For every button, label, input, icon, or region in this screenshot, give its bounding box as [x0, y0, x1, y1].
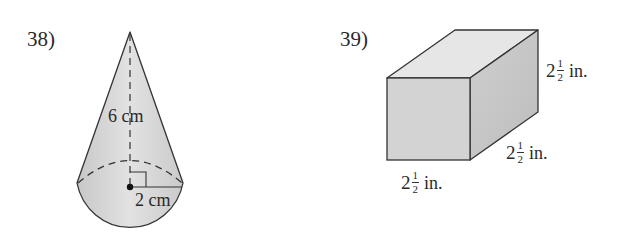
box-width-label: 2 1 2 in.	[401, 170, 443, 195]
whole-part: 2	[506, 143, 516, 162]
denominator: 2	[558, 71, 564, 83]
whole-part: 2	[546, 61, 556, 80]
unit: in.	[424, 174, 443, 192]
fraction: 1 2	[412, 170, 420, 195]
denominator: 2	[518, 153, 524, 165]
fraction: 1 2	[517, 140, 525, 165]
cone-center-point	[127, 184, 133, 190]
numerator: 1	[557, 58, 565, 71]
box-front-face	[387, 78, 470, 160]
unit: in.	[529, 144, 548, 162]
figures-canvas	[0, 0, 625, 243]
box-height-label: 2 1 2 in.	[546, 58, 588, 83]
unit: in.	[569, 62, 588, 80]
numerator: 1	[412, 170, 420, 183]
fraction: 1 2	[557, 58, 565, 83]
cone-height-label: 6 cm	[108, 107, 144, 125]
whole-part: 2	[401, 173, 411, 192]
numerator: 1	[517, 140, 525, 153]
box-depth-label: 2 1 2 in.	[506, 140, 548, 165]
cone-radius-label: 2 cm	[135, 191, 171, 209]
denominator: 2	[413, 183, 419, 195]
